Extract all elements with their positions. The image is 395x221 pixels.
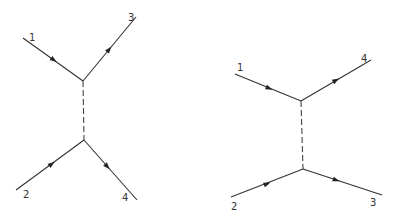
left-diagram: 1 3 2 4 [16,12,137,203]
label-3: 3 [128,12,134,23]
feynman-diagrams: 1 3 2 4 1 4 2 3 [0,0,395,221]
label-4: 4 [122,192,128,203]
label-2: 2 [23,189,29,200]
label-1: 1 [237,62,243,73]
label-3: 3 [370,197,376,208]
right-diagram: 1 4 2 3 [231,53,382,212]
propagator [301,101,303,169]
line-4 [84,140,137,200]
arrow-icon [332,76,341,84]
label-2: 2 [231,201,237,212]
arrow-icon [332,177,340,184]
propagator [83,81,84,140]
line-3 [303,169,382,195]
arrow-icon [265,85,273,92]
label-4: 4 [361,53,367,64]
label-1: 1 [29,32,35,43]
